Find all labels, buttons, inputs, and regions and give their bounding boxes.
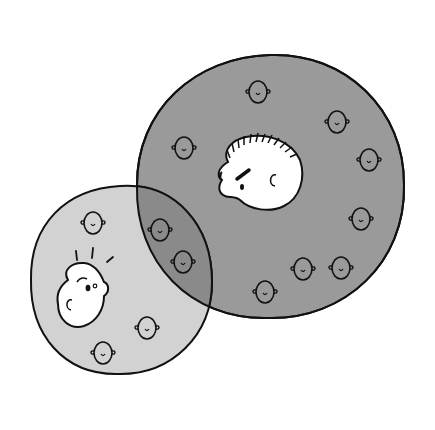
- illustration-svg: [0, 0, 435, 430]
- venn-illustration: [0, 0, 435, 430]
